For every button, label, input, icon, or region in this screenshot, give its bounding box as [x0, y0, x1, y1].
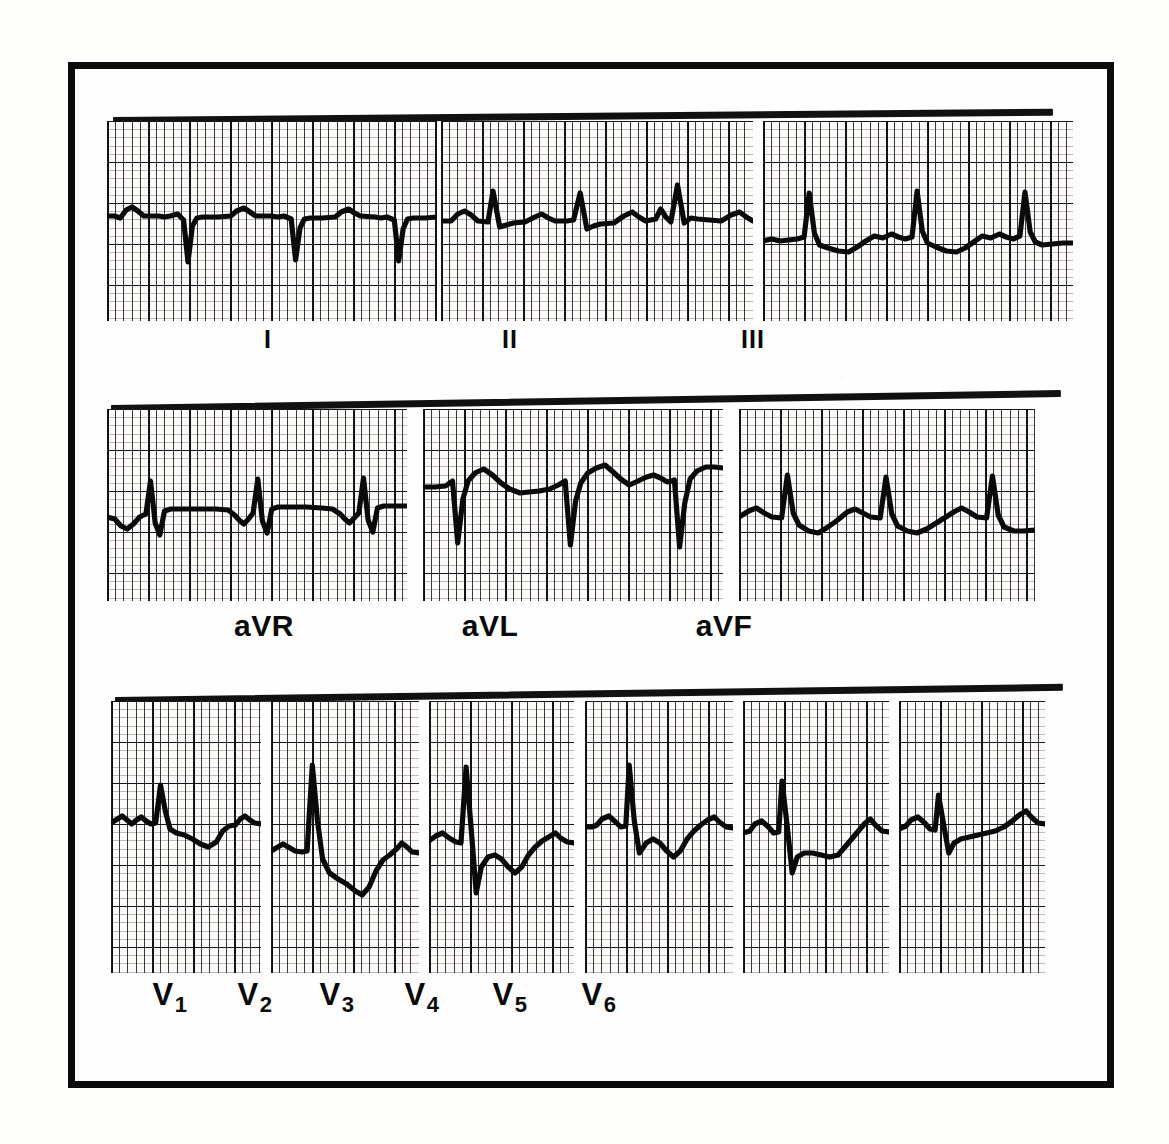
lead-label-subscript: 3	[341, 992, 355, 1017]
lead-label-v1: V1	[153, 977, 188, 1018]
waveform-v6	[899, 701, 1045, 973]
lead-label-v4: V4	[405, 977, 440, 1018]
lead-label-i: I	[264, 325, 272, 354]
ecg-strip-ii	[441, 121, 753, 321]
lead-label-v5: V5	[493, 977, 528, 1018]
ecg-strip-avl	[423, 409, 723, 601]
lead-label-base: V	[493, 977, 514, 1012]
lead-label-subscript: 4	[426, 992, 440, 1017]
lead-label-v2: V2	[238, 977, 273, 1018]
waveform-v1	[111, 701, 261, 973]
waveform-v2	[271, 701, 419, 973]
lead-row-limb-leads: IIIIII	[75, 121, 1107, 371]
ecg-strip-i	[107, 121, 437, 321]
lead-row-augmented-leads: aVRaVLaVF	[75, 409, 1107, 655]
ecg-strip-v6	[899, 701, 1045, 973]
waveform-ii	[441, 121, 753, 321]
waveform-v4	[585, 701, 733, 973]
lead-label-iii: III	[741, 325, 765, 354]
ecg-strip-avf	[739, 409, 1035, 601]
waveform-v5	[743, 701, 889, 973]
ecg-strip-v2	[271, 701, 419, 973]
waveform-avf	[739, 409, 1035, 601]
lead-label-subscript: 1	[174, 992, 188, 1017]
lead-label-base: V	[153, 977, 174, 1012]
ecg-strip-avr	[107, 409, 407, 601]
lead-label-v6: V6	[582, 977, 617, 1018]
waveform-v3	[429, 701, 574, 973]
lead-label-ii: II	[502, 325, 518, 354]
lead-label-subscript: 6	[603, 992, 617, 1017]
lead-row-precordial-leads: V1V2V3V4V5V6	[75, 701, 1107, 1023]
lead-label-avf: aVF	[696, 609, 753, 643]
lead-label-subscript: 2	[259, 992, 273, 1017]
ecg-strip-v1	[111, 701, 261, 973]
ecg-strip-v4	[585, 701, 733, 973]
lead-label-avl: aVL	[462, 609, 519, 643]
lead-label-base: V	[238, 977, 259, 1012]
waveform-avr	[107, 409, 407, 601]
waveform-i	[107, 121, 437, 321]
lead-label-v3: V3	[320, 977, 355, 1018]
waveform-avl	[423, 409, 723, 601]
ecg-strip-v3	[429, 701, 574, 973]
lead-label-base: V	[320, 977, 341, 1012]
lead-label-base: V	[582, 977, 603, 1012]
lead-label-subscript: 5	[514, 992, 528, 1017]
lead-label-avr: aVR	[234, 609, 294, 643]
ecg-strip-iii	[763, 121, 1073, 321]
waveform-iii	[763, 121, 1073, 321]
lead-label-base: V	[405, 977, 426, 1012]
ecg-frame: IIIIIIaVRaVLaVFV1V2V3V4V5V6	[68, 62, 1114, 1088]
ecg-strip-v5	[743, 701, 889, 973]
